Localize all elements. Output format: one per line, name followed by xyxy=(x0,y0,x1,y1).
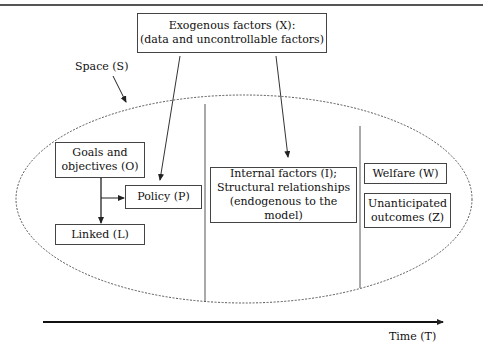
internal-line3: (endogenous to the model) xyxy=(211,195,356,223)
linked-label: Linked (L) xyxy=(71,228,129,242)
space-label: Space (S) xyxy=(75,60,128,73)
goals-objectives-box: Goals and objectives (O) xyxy=(55,142,145,178)
welfare-label: Welfare (W) xyxy=(372,167,438,181)
internal-factors-box: Internal factors (I); Structural relatio… xyxy=(210,167,357,223)
unanticipated-outcomes-box: Unanticipated outcomes (Z) xyxy=(364,193,451,228)
goals-line2: objectives (O) xyxy=(61,160,138,174)
internal-line1: Internal factors (I); xyxy=(230,167,337,181)
exogenous-line2: (data and uncontrollable factors) xyxy=(140,33,324,47)
goals-line1: Goals and xyxy=(72,146,127,160)
policy-label: Policy (P) xyxy=(137,190,189,204)
exogenous-factors-box: Exogenous factors (X): (data and uncontr… xyxy=(137,13,327,53)
time-label: Time (T) xyxy=(389,330,436,343)
internal-line2: Structural relationships xyxy=(217,181,350,195)
linked-box: Linked (L) xyxy=(55,224,145,245)
space-pointer-arrow xyxy=(113,76,126,102)
exogenous-to-internal-arrow xyxy=(276,56,288,157)
exogenous-line1: Exogenous factors (X): xyxy=(169,19,296,33)
unanticipated-line1: Unanticipated xyxy=(368,197,447,211)
welfare-box: Welfare (W) xyxy=(364,163,447,184)
unanticipated-line2: outcomes (Z) xyxy=(371,211,444,225)
exogenous-to-policy-arrow xyxy=(160,56,180,180)
policy-box: Policy (P) xyxy=(125,185,202,209)
